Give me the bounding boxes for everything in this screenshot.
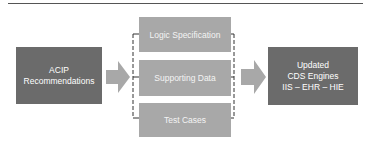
- arrow-right-icon: [241, 60, 266, 94]
- acip-recommendations-box: ACIP Recommendations: [16, 47, 102, 104]
- source-line-2: Recommendations: [24, 76, 95, 87]
- top-rule: [8, 3, 363, 4]
- source-line-1: ACIP: [24, 65, 95, 76]
- supporting-data-label: Supporting Data: [154, 73, 215, 83]
- logic-specification-box: Logic Specification: [139, 17, 231, 52]
- logic-specification-label: Logic Specification: [150, 30, 221, 40]
- target-line-2: CDS Engines: [282, 71, 343, 82]
- arrow-right-icon: [106, 61, 130, 93]
- target-line-1: Updated: [282, 60, 343, 71]
- test-cases-box: Test Cases: [139, 103, 231, 137]
- test-cases-label: Test Cases: [164, 115, 206, 125]
- supporting-data-box: Supporting Data: [139, 60, 231, 96]
- updated-cds-engines-box: Updated CDS Engines IIS – EHR – HIE: [268, 47, 358, 105]
- target-line-3: IIS – EHR – HIE: [282, 82, 343, 93]
